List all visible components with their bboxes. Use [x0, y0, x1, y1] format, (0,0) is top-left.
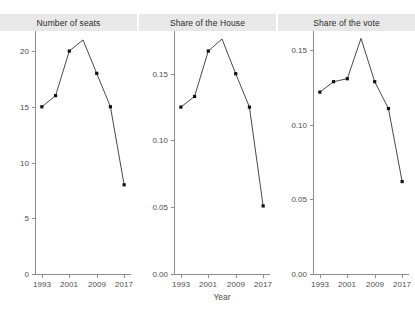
data-point-2-0 — [179, 106, 182, 109]
data-point-3-2 — [346, 77, 349, 80]
x-axis-line-3 — [313, 274, 409, 275]
x-tick-1-2 — [97, 275, 98, 278]
x-tick-2-3 — [263, 275, 264, 278]
x-tick-3-0 — [320, 275, 321, 278]
y-tick-label-2-2: 0.10 — [141, 136, 168, 145]
x-tick-3-3 — [402, 275, 403, 278]
x-tick-label-2-3: 2017 — [254, 280, 272, 289]
data-point-1-6 — [123, 183, 126, 186]
data-point-3-1 — [332, 80, 335, 83]
x-axis-title: Year — [213, 292, 230, 302]
data-point-1-0 — [40, 105, 43, 108]
y-tick-label-3-2: 0.10 — [280, 121, 307, 130]
facet-strip-3: Share of the vote — [278, 14, 415, 31]
series-line-2 — [181, 39, 263, 206]
facet-strip-2: Share of the House — [139, 14, 276, 31]
facet-panel-share-of-the-house: Share of the House 0.000.050.100.1519932… — [139, 0, 276, 300]
chart-figure: Number of seats 051015201993200120092017… — [0, 0, 415, 315]
data-point-3-0 — [318, 91, 321, 94]
y-tick-1-0 — [32, 274, 35, 275]
x-tick-2-2 — [236, 275, 237, 278]
y-tick-label-2-0: 0.00 — [141, 270, 168, 279]
x-tick-label-2-1: 2001 — [199, 280, 217, 289]
data-point-2-1 — [193, 95, 196, 98]
y-tick-label-1-3: 15 — [2, 103, 29, 112]
x-tick-label-1-3: 2017 — [115, 280, 133, 289]
plot-area-1: 051015201993200120092017 — [35, 31, 131, 274]
data-point-3-6 — [401, 180, 404, 183]
y-tick-label-2-1: 0.05 — [141, 203, 168, 212]
data-point-3-5 — [387, 107, 390, 110]
x-tick-2-1 — [208, 275, 209, 278]
x-tick-label-3-1: 2001 — [338, 280, 356, 289]
y-tick-3-0 — [310, 274, 313, 275]
y-tick-label-1-4: 20 — [2, 47, 29, 56]
series-1 — [35, 31, 131, 274]
facet-panel-number-of-seats: Number of seats 051015201993200120092017 — [0, 0, 137, 300]
x-tick-1-3 — [124, 275, 125, 278]
series-2 — [174, 31, 270, 274]
y-tick-label-3-1: 0.05 — [280, 195, 307, 204]
data-point-1-2 — [68, 49, 71, 52]
data-point-1-1 — [54, 94, 57, 97]
y-tick-label-1-2: 10 — [2, 159, 29, 168]
data-point-2-4 — [234, 72, 237, 75]
y-tick-label-3-3: 0.15 — [280, 46, 307, 55]
data-point-2-6 — [262, 204, 265, 207]
x-axis-line-2 — [174, 274, 270, 275]
x-tick-1-0 — [42, 275, 43, 278]
x-tick-label-3-3: 2017 — [393, 280, 411, 289]
y-tick-label-1-0: 0 — [2, 270, 29, 279]
x-tick-label-3-2: 2009 — [366, 280, 384, 289]
series-line-1 — [42, 40, 124, 185]
x-tick-label-1-2: 2009 — [88, 280, 106, 289]
y-tick-label-2-3: 0.15 — [141, 70, 168, 79]
x-tick-3-1 — [347, 275, 348, 278]
y-tick-label-1-1: 5 — [2, 214, 29, 223]
data-point-1-4 — [95, 72, 98, 75]
y-tick-label-3-0: 0.00 — [280, 270, 307, 279]
data-point-2-5 — [248, 106, 251, 109]
facet-panel-share-of-the-vote: Share of the vote 0.000.050.100.15199320… — [278, 0, 415, 300]
x-tick-label-1-0: 1993 — [33, 280, 51, 289]
facet-strip-1: Number of seats — [0, 14, 137, 31]
x-tick-label-3-0: 1993 — [311, 280, 329, 289]
y-tick-2-0 — [171, 274, 174, 275]
plot-area-2: 0.000.050.100.151993200120092017 — [174, 31, 270, 274]
x-axis-line-1 — [35, 274, 131, 275]
facet-title-1: Number of seats — [37, 18, 101, 28]
plot-area-3: 0.000.050.100.151993200120092017 — [313, 31, 409, 274]
facet-title-3: Share of the vote — [313, 18, 379, 28]
x-tick-1-1 — [69, 275, 70, 278]
x-tick-label-2-0: 1993 — [172, 280, 190, 289]
x-tick-label-2-2: 2009 — [227, 280, 245, 289]
data-point-1-5 — [109, 105, 112, 108]
facet-title-2: Share of the House — [170, 18, 245, 28]
series-3 — [313, 31, 409, 274]
data-point-3-4 — [373, 80, 376, 83]
data-point-2-2 — [207, 49, 210, 52]
x-tick-3-2 — [375, 275, 376, 278]
x-tick-label-1-1: 2001 — [60, 280, 78, 289]
x-tick-2-0 — [181, 275, 182, 278]
